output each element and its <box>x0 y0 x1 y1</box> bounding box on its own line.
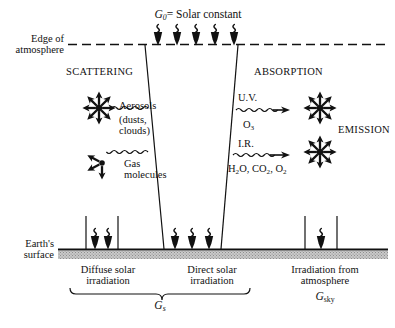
uv-absorption-burst <box>303 91 336 124</box>
incoming-solar-arrows <box>154 25 238 46</box>
ir-species-p2: , O <box>270 163 283 174</box>
earth-surface-line1: Earth's <box>4 238 54 249</box>
gs-label: Gs <box>130 299 190 313</box>
earth-ground-band <box>58 251 388 259</box>
direct-line2: irradiation <box>166 275 258 286</box>
diffuse-irradiation-label: Diffuse solar irradiation <box>62 264 154 286</box>
diffuse-line1: Diffuse solar <box>62 264 154 275</box>
scattering-heading: SCATTERING <box>66 66 133 77</box>
aerosols-label: Aerosols (dusts, clouds) <box>119 100 156 136</box>
solar-constant-label: G0= Solar constant <box>135 8 261 22</box>
ir-label: I.R. <box>238 138 254 149</box>
diffuse-irradiation-group <box>86 216 118 250</box>
ir-absorption-burst <box>303 135 336 168</box>
diffuse-line2: irradiation <box>62 275 154 286</box>
gas-incident-wave <box>106 151 148 154</box>
edge-label-line1: Edge of <box>6 33 64 44</box>
direct-line1: Direct solar <box>166 264 258 275</box>
gas-line1: Gas <box>124 158 167 169</box>
edge-label-line2: atmosphere <box>6 44 64 55</box>
uv-wave-ray <box>236 109 278 112</box>
beam-left-edge <box>145 45 164 249</box>
solar-constant-symbol: G <box>154 8 162 20</box>
gs-symbol: G <box>154 299 162 311</box>
ozone-subscript: 3 <box>251 124 255 132</box>
ir-wave-ray <box>233 154 275 157</box>
ir-species-p1: O, CO <box>239 163 266 174</box>
earth-surface-label: Earth's surface <box>4 238 54 260</box>
sky-line1: Irradiation from <box>270 264 380 275</box>
gsky-symbol: G <box>315 290 323 302</box>
uv-label: U.V. <box>238 92 257 103</box>
aerosol-scatter-burst <box>82 91 115 124</box>
ozone-label: O3 <box>243 119 254 132</box>
sky-irradiation-group <box>305 216 337 250</box>
solar-constant-text: = Solar constant <box>167 8 242 20</box>
edge-of-atmosphere-label: Edge of atmosphere <box>6 33 64 55</box>
ozone-symbol: O <box>243 119 251 130</box>
aerosols-line2: (dusts, <box>119 114 156 125</box>
direct-irradiation-label: Direct solar irradiation <box>166 264 258 286</box>
ir-species-label: H2O, CO2, O2 <box>228 163 287 176</box>
earth-surface-line2: surface <box>4 249 54 260</box>
gas-line2: molecules <box>124 169 167 180</box>
aerosols-line1: Aerosols <box>119 100 156 111</box>
ir-species-p2-sub: 2 <box>283 168 287 176</box>
direct-irradiation-group <box>171 229 213 250</box>
gs-subscript: s <box>163 304 166 313</box>
beam-right-edge <box>221 45 238 249</box>
absorption-heading: ABSORPTION <box>254 66 323 77</box>
gsky-subscript: sky <box>324 295 335 304</box>
gas-molecules-label: Gas molecules <box>124 158 167 180</box>
sky-line2: atmosphere <box>270 275 380 286</box>
aerosols-line3: clouds) <box>119 125 156 136</box>
solar-radiation-diagram: G0= Solar constant Edge of atmosphere SC… <box>0 0 395 328</box>
gsky-label: Gsky <box>295 290 355 304</box>
sky-irradiation-label: Irradiation from atmosphere <box>270 264 380 286</box>
gas-molecule-scatter <box>86 152 106 179</box>
ir-species-p0: H <box>228 163 236 174</box>
emission-heading: EMISSION <box>338 124 390 135</box>
